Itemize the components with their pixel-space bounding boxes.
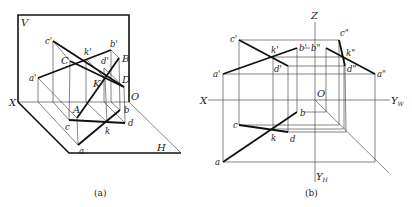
lines-b: [223, 40, 375, 162]
label-K: K: [92, 78, 101, 89]
label-k-prime: k': [84, 47, 92, 57]
label-origin-b: O: [317, 88, 325, 99]
label-c-prime-b: c': [230, 34, 237, 44]
label-k-b: k: [271, 133, 276, 143]
label-c-prime: c': [45, 36, 52, 46]
label-a: a: [79, 146, 84, 156]
label-c-b: c: [233, 120, 238, 130]
label-h-plane: H: [156, 142, 166, 153]
label-z-axis: Z: [310, 10, 319, 21]
label-b-b: b: [300, 108, 305, 118]
label-c-dprime: c": [340, 28, 349, 38]
label-k-prime-b: k': [271, 45, 279, 55]
label-v-plane: V: [21, 17, 30, 28]
label-k: k: [105, 126, 110, 136]
label-A: A: [72, 104, 80, 115]
label-x-axis: X: [8, 97, 17, 108]
label-b-prime-b: b': [299, 43, 307, 53]
line-cd-h: [239, 125, 288, 132]
caption-a: (a): [94, 188, 106, 198]
v-plane: [18, 15, 129, 102]
line-ab-h: [78, 110, 120, 145]
label-d-b: d: [290, 134, 296, 144]
label-b: b: [124, 105, 129, 115]
label-d-dprime: d": [347, 64, 356, 74]
label-a-prime-b: a': [213, 69, 220, 79]
label-d: d: [128, 118, 134, 128]
figure-a: V H X O c' k' b' d' a' C B K D A c k d b…: [8, 15, 181, 198]
label-c: c: [65, 122, 70, 132]
label-yh-axis: YH: [316, 171, 329, 183]
label-a-prime: a': [29, 73, 36, 83]
label-B: B: [121, 53, 129, 64]
projectors-a: [38, 41, 125, 145]
label-b-dprime: b": [311, 43, 320, 53]
label-b-prime: b': [110, 39, 118, 49]
label-a-b: a: [215, 157, 220, 167]
label-C: C: [61, 55, 69, 66]
figure-b: Z X YW YH O c' k' b' d' a' c" b" k" d" a…: [199, 10, 405, 198]
label-d-prime: d': [101, 56, 109, 66]
label-yw-axis: YW: [391, 95, 405, 107]
label-k-dprime: k": [346, 48, 355, 58]
label-D: D: [121, 74, 130, 85]
label-d-prime-b: d': [274, 64, 282, 74]
label-origin: O: [131, 91, 139, 102]
label-a-dprime: a": [377, 69, 386, 79]
line-cd-w: [339, 40, 345, 66]
label-x-axis-b: X: [199, 95, 208, 106]
projection-diagram: V H X O c' k' b' d' a' C B K D A c k d b…: [0, 0, 412, 207]
caption-b: (b): [305, 188, 318, 198]
lines-a: [38, 41, 125, 145]
h-plane-right-edge: [129, 102, 181, 153]
projectors-b: [223, 40, 375, 162]
